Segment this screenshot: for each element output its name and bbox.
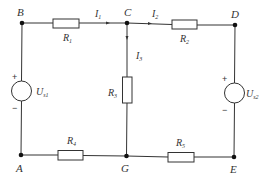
plus-sign-us1: +: [12, 72, 17, 82]
resistor-r4: [58, 151, 83, 161]
label-node-a: A: [15, 162, 23, 174]
source-labels: Us1 + − Us2 + −: [12, 72, 259, 115]
label-node-c: C: [124, 6, 132, 18]
circuit-diagram: B C D A G E R1 R2 R3 R4 R5 I1 I2 I3 Us1 …: [0, 0, 260, 185]
label-i3: I3: [135, 50, 142, 62]
label-i1: I1: [94, 8, 101, 20]
arrow-i1-icon: [106, 22, 110, 25]
plus-sign-us2: +: [222, 74, 227, 84]
current-arrows: [106, 22, 152, 41]
wire-r4-g: [83, 156, 127, 157]
label-us1: Us1: [36, 86, 49, 98]
label-r1: R1: [62, 32, 72, 44]
label-r3: R3: [107, 87, 117, 99]
label-r5: R5: [175, 137, 185, 149]
minus-sign-us1: −: [12, 103, 17, 113]
node-e-dot: [232, 155, 237, 160]
resistor-r2: [172, 20, 197, 29]
wire-us1-a: [21, 101, 22, 155]
label-i2: I2: [151, 8, 158, 20]
arrow-i2-icon: [148, 22, 152, 25]
label-node-d: D: [230, 8, 239, 20]
wire-us2-e: [234, 103, 235, 157]
voltage-source-us2: [225, 83, 245, 103]
label-node-g: G: [121, 162, 129, 174]
minus-sign-us2: −: [222, 105, 227, 115]
resistor-r3: [123, 77, 133, 103]
wire-b-us1: [22, 23, 23, 81]
node-a-dot: [19, 153, 24, 158]
resistor-r5: [168, 153, 194, 163]
wire-r3-g: [127, 103, 128, 156]
arrow-i3-icon: [126, 36, 129, 40]
node-c-dot: [125, 21, 130, 26]
label-r2: R2: [179, 33, 189, 45]
node-g-dot: [124, 154, 129, 159]
resistor-r1: [53, 19, 79, 28]
wire-g-r5: [127, 156, 169, 157]
wire-d-us2: [235, 25, 236, 83]
label-node-b: B: [17, 6, 24, 18]
label-node-e: E: [229, 163, 237, 175]
label-us2: Us2: [246, 88, 259, 100]
label-r4: R4: [66, 135, 76, 147]
node-d-dot: [233, 23, 238, 28]
node-b-dot: [20, 21, 25, 26]
voltage-source-us1: [12, 81, 32, 101]
